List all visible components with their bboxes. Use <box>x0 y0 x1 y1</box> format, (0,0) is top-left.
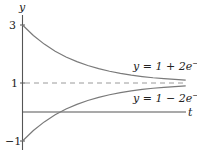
tick-label-1: 1 <box>11 77 18 90</box>
upper-curve-label: y = 1 + 2e−2t <box>132 59 197 73</box>
tick-label-neg1: −1 <box>5 135 21 148</box>
y-axis-label: y <box>18 1 26 14</box>
t-axis-label: t <box>188 106 193 119</box>
lower-curve-label: y = 1 − 2e−2t <box>132 91 197 105</box>
tick-label-3: 3 <box>9 19 16 32</box>
chart: y t 3 1 −1 y = 1 + 2e−2t y = 1 − 2e−2t <box>0 0 197 158</box>
